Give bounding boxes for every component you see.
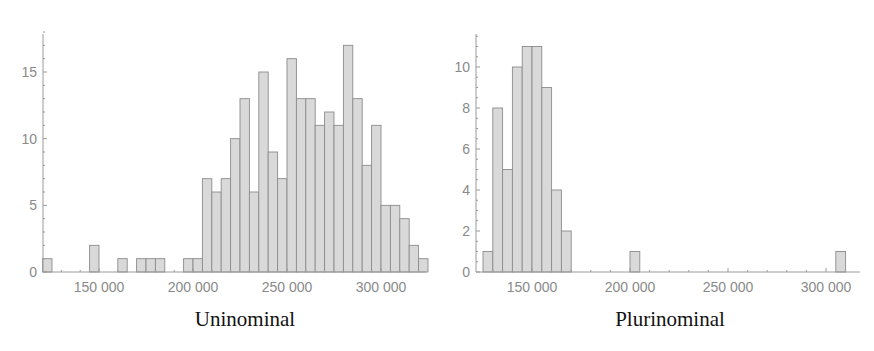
histogram-bar [240, 99, 249, 272]
y-tick-label: 15 [21, 64, 37, 80]
x-tick-label: 250 000 [262, 279, 313, 295]
histogram-bar [542, 88, 552, 273]
histogram-bar [137, 259, 146, 272]
histogram-bar [362, 165, 371, 272]
histogram-bar [193, 259, 202, 272]
histogram-bar [512, 67, 522, 272]
histogram-bar [836, 252, 846, 273]
y-tick-label: 5 [29, 197, 37, 213]
histogram-bar [325, 112, 334, 272]
histogram-bar [278, 179, 287, 272]
y-tick-label: 6 [462, 141, 470, 157]
histogram-bar [630, 252, 640, 273]
histogram-bar [202, 179, 211, 272]
histogram-bar [552, 190, 562, 272]
histogram-bar [184, 259, 193, 272]
histogram-bar [43, 259, 52, 272]
x-tick-label: 150 000 [507, 279, 558, 295]
histogram-bar [221, 179, 230, 272]
y-tick-label: 8 [462, 100, 470, 116]
histogram-bar [381, 205, 390, 272]
histogram-bar [315, 125, 324, 272]
histogram-bar [532, 47, 542, 273]
y-tick-label: 2 [462, 223, 470, 239]
histogram-bar [353, 99, 362, 272]
histogram-bar [390, 205, 399, 272]
histogram-bar [259, 72, 268, 272]
histogram-bar [343, 45, 352, 272]
histogram-bar [522, 47, 532, 273]
y-tick-label: 4 [462, 182, 470, 198]
x-tick-label: 200 000 [605, 279, 656, 295]
histogram-bar [268, 152, 277, 272]
uninominal-title: Uninominal [130, 307, 360, 332]
x-tick-label: 300 000 [801, 279, 852, 295]
plurinominal-plot-area: 0246810150 000200 000250 000300 000 [437, 0, 874, 300]
histogram-bar [483, 252, 493, 273]
plurinominal-title: Plurinominal [560, 307, 780, 332]
histogram-bar [90, 245, 99, 272]
histogram-bar [409, 245, 418, 272]
histogram-bar [296, 99, 305, 272]
histogram-bar [400, 219, 409, 272]
histogram-bar [334, 125, 343, 272]
histogram-bar [561, 231, 571, 272]
x-tick-label: 300 000 [356, 279, 407, 295]
uninominal-histogram: 051015150 000200 000250 000300 000 [0, 0, 437, 300]
histogram-bar [249, 192, 258, 272]
histogram-bar [287, 59, 296, 272]
histogram-bar [231, 139, 240, 272]
x-tick-label: 200 000 [168, 279, 219, 295]
plurinominal-histogram: 0246810150 000200 000250 000300 000 [437, 0, 874, 300]
y-tick-label: 0 [462, 264, 470, 280]
histogram-bar [493, 108, 503, 272]
histogram-bar [372, 125, 381, 272]
histogram-bar [118, 259, 127, 272]
y-tick-label: 10 [21, 131, 37, 147]
y-tick-label: 10 [454, 59, 470, 75]
histogram-bar [146, 259, 155, 272]
uninominal-plot-area: 051015150 000200 000250 000300 000 [0, 0, 437, 300]
y-tick-label: 0 [29, 264, 37, 280]
x-tick-label: 150 000 [74, 279, 125, 295]
histogram-bar [212, 192, 221, 272]
x-tick-label: 250 000 [703, 279, 754, 295]
histogram-bar [155, 259, 164, 272]
histogram-bar [306, 99, 315, 272]
histogram-bar [419, 259, 428, 272]
histogram-bar [503, 170, 513, 273]
